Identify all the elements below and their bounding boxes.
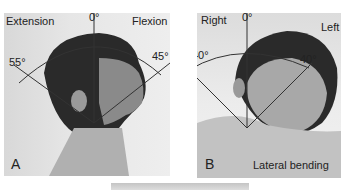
panel-a-label: A [11, 156, 20, 172]
panel-b-label: B [205, 156, 214, 172]
panel-b-photo-diagram [197, 13, 341, 178]
flexion-label: Flexion [132, 15, 167, 27]
flexion-angle-label: 45° [152, 50, 169, 62]
left-angle-label: 40° [300, 53, 317, 65]
right-label: Right [201, 14, 227, 26]
panel-a-extension-flexion: Extension Flexion 0° 55° 45° A [4, 13, 170, 176]
extension-angle-label: 55° [9, 56, 26, 68]
extension-label: Extension [6, 15, 54, 27]
left-label: Left [321, 21, 339, 33]
panel-a-photo-diagram [4, 13, 170, 176]
zero-degree-label: 0° [242, 13, 253, 23]
bottom-bar [111, 183, 249, 190]
zero-degree-label: 0° [89, 13, 100, 23]
panel-b-lateral-bending: Right Left 0° 40° 40° B Lateral bending [197, 13, 341, 178]
lateral-bending-caption: Lateral bending [253, 159, 329, 171]
right-angle-label: 40° [197, 49, 209, 61]
